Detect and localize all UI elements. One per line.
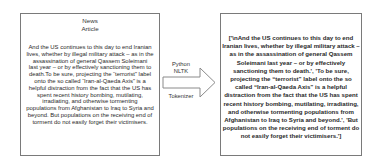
token-line: distraction from the fact that the US ha… [222, 91, 360, 99]
article-line: lives, whether by illegal military attac… [23, 51, 157, 58]
arrow-label-nltk: NLTK [161, 68, 201, 75]
article-title-line-1: News [21, 17, 159, 24]
token-line: Afghanistan to Iraq to Syria and beyond.… [222, 116, 360, 124]
article-line: helpful distraction from the fact that t… [23, 85, 157, 92]
article-line: And the US continues to this day to end … [23, 44, 157, 51]
arrow-label-tokenizer: Tokenizer [161, 93, 201, 100]
token-line: as in the assassination of general Qasse… [222, 50, 360, 58]
article-line: onto the so called “Iran-al-Qaeda Axis” … [23, 78, 157, 85]
token-line: projecting the “terrorist” label onto th… [222, 75, 360, 83]
article-title-line-2: Article [21, 25, 159, 32]
article-line: torment do not easily forget their victi… [23, 119, 157, 126]
article-line: assassination of general Qassem Soleiman… [23, 58, 157, 65]
token-line: sanctioning them to death.', 'To be sure… [222, 67, 360, 75]
article-line: irradiating, and otherwise tormenting [23, 98, 157, 105]
token-line: recent history bombing, mutilating, irra… [222, 100, 360, 108]
article-line: populations from Afghanistan to Iraq to … [23, 105, 157, 112]
token-line: Soleimani last year – or by effectively [222, 59, 360, 67]
token-line: not easily forget their victimisers.'] [222, 132, 360, 140]
article-line: spent recent history bombing, mutilating… [23, 92, 157, 99]
arrow-label-python: Python [161, 61, 201, 68]
article-line: beyond. But populations on the receiving… [23, 112, 157, 119]
token-line: ['\nAnd the US continues to this day to … [222, 34, 360, 42]
article-line: death.To be sure, projecting the “terror… [23, 71, 157, 78]
tokenized-sentences-text: ['\nAnd the US continues to this day to … [222, 34, 360, 141]
token-line: Iranian lives, whether by illegal milita… [222, 42, 360, 50]
article-line: last year – or by effectively sanctionin… [23, 64, 157, 71]
token-line: populations on the receiving end of torm… [222, 124, 360, 132]
token-line: called “Iran-al-Qaeda Axis” is a helpful [222, 83, 360, 91]
tokenized-output-box: ['\nAnd the US continues to this day to … [220, 13, 362, 156]
token-line: and otherwise tormenting populations fro… [222, 108, 360, 116]
article-body-text: And the US continues to this day to end … [23, 44, 157, 126]
news-article-box: News Article And the US continues to thi… [20, 13, 160, 156]
